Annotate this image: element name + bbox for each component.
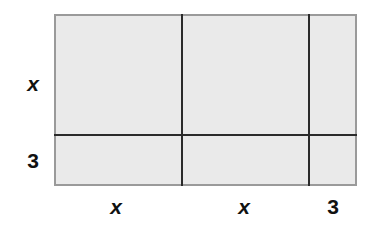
row-label-3: 3 <box>16 150 50 171</box>
row-label-x: x <box>16 73 50 94</box>
horizontal-partition-line <box>54 134 357 136</box>
vertical-partition-line-2 <box>308 14 310 186</box>
column-label-x-1: x <box>90 196 142 217</box>
column-label-x-2: x <box>218 196 270 217</box>
vertical-partition-line-1 <box>181 14 183 186</box>
area-model-diagram: x 3 x x 3 <box>0 0 373 228</box>
area-rectangle <box>54 14 357 186</box>
column-label-3: 3 <box>308 196 358 217</box>
